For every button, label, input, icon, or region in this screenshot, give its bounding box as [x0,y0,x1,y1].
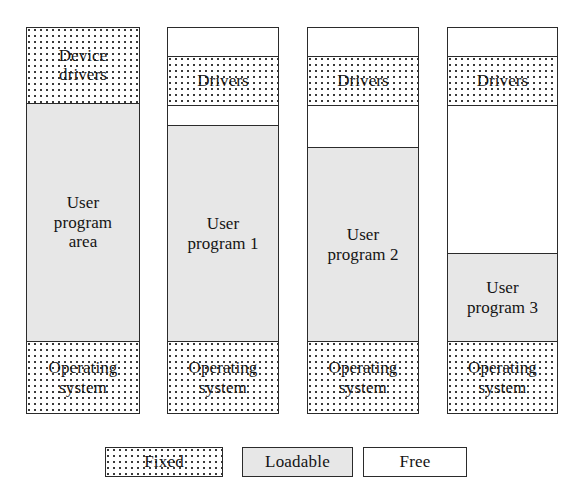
legend-item-fixed: Fixed [105,447,223,477]
memory-column-2: Drivers Userprogram 1 Operatingsystem [167,27,279,414]
memory-segment-free-gap [448,105,557,253]
memory-segment-free-gap [168,105,278,125]
memory-segment-free-top [168,28,278,56]
memory-column-1: Devicedrivers Userprogramarea Operatings… [26,27,140,414]
memory-segment-user-program-1: Userprogram 1 [168,125,278,342]
memory-segment-user-program-2: Userprogram 2 [308,147,418,341]
legend-label-loadable: Loadable [265,452,330,472]
memory-segment-label: Drivers [194,71,252,91]
memory-segment-user-program-3: Userprogram 3 [448,253,557,342]
memory-column-4: Drivers Userprogram 3 Operatingsystem [447,27,558,414]
memory-segment-free-gap [308,105,418,148]
memory-segment-operating-system: Operatingsystem [308,341,418,413]
memory-segment-label: Devicedrivers [56,46,111,85]
memory-segment-label: Userprogram 2 [324,225,401,264]
memory-segment-label: Operatingsystem [465,358,540,397]
legend: Fixed Loadable Free [0,447,585,479]
memory-segment-label: Operatingsystem [326,358,401,397]
memory-segment-label: Operatingsystem [46,358,121,397]
memory-segment-operating-system: Operatingsystem [168,341,278,413]
memory-segment-free-top [448,28,557,56]
memory-segment-label: Userprogram 1 [184,214,261,253]
legend-item-free: Free [363,447,467,477]
memory-segment-label: Userprogramarea [51,193,115,252]
memory-layout-diagram: Devicedrivers Userprogramarea Operatings… [0,0,585,503]
memory-segment-operating-system: Operatingsystem [448,341,557,413]
legend-item-loadable: Loadable [242,447,353,477]
memory-segment-user-program-area: Userprogramarea [27,103,139,342]
legend-label-free: Free [399,452,430,472]
memory-segment-free-top [308,28,418,56]
memory-segment-label: Userprogram 3 [464,278,541,317]
memory-segment-operating-system: Operatingsystem [27,341,139,413]
memory-segment-label: Operatingsystem [186,358,261,397]
legend-label-fixed: Fixed [144,452,184,472]
memory-segment-label: Drivers [334,71,392,91]
memory-segment-drivers: Drivers [448,56,557,105]
memory-segment-label: Drivers [474,71,532,91]
memory-column-3: Drivers Userprogram 2 Operatingsystem [307,27,419,414]
memory-segment-device-drivers: Devicedrivers [27,28,139,103]
memory-segment-drivers: Drivers [168,56,278,105]
memory-segment-drivers: Drivers [308,56,418,105]
